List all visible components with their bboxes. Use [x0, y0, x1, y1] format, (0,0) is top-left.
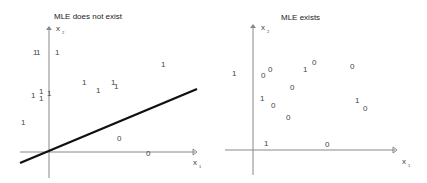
panel-title: MLE does not exist	[54, 12, 122, 21]
data-point-label: 1	[55, 49, 59, 57]
data-point-label: 1	[47, 90, 51, 98]
panel-title: MLE exists	[281, 13, 320, 22]
data-point-label: 0	[325, 141, 329, 149]
data-point-label: 1	[232, 70, 236, 78]
y-axis-label: x2	[56, 24, 64, 35]
x-axis-label: x1	[402, 157, 410, 168]
data-point-label: 1	[114, 83, 118, 91]
plot-axes	[213, 0, 427, 183]
data-point-label: 0	[312, 59, 316, 67]
data-point-label: 0	[286, 114, 290, 122]
data-point-label: 1	[161, 61, 165, 69]
y-axis-arrow-icon	[46, 26, 52, 30]
data-point-label: 1	[21, 119, 25, 127]
data-point-label: 0	[271, 102, 275, 110]
data-point-label: 0	[268, 66, 272, 74]
y-axis-label: x2	[261, 23, 269, 34]
x-axis-label: x1	[193, 158, 201, 169]
data-point-label: 1	[264, 140, 268, 148]
y-axis-arrow-icon	[250, 24, 256, 28]
data-point-label: 1	[31, 92, 35, 100]
data-point-label: 1	[39, 95, 43, 103]
data-point-label: 0	[146, 150, 150, 158]
data-point-label: 1	[303, 66, 307, 74]
data-point-label: 1	[96, 87, 100, 95]
data-point-label: 1	[355, 97, 359, 105]
data-point-label: 1	[82, 79, 86, 87]
panel-mle-exists: MLE exists x2 x1 10010001001010	[213, 0, 427, 183]
data-point-label: 1	[36, 49, 40, 57]
data-point-label: 0	[117, 135, 121, 143]
data-point-label: 0	[261, 72, 265, 80]
data-point-label: 1	[260, 95, 264, 103]
data-point-label: 0	[350, 63, 354, 71]
data-point-label: 0	[363, 105, 367, 113]
panel-mle-not-exist: MLE does not exist x2 x1 111111111111100	[0, 0, 213, 183]
data-point-label: 0	[290, 84, 294, 92]
